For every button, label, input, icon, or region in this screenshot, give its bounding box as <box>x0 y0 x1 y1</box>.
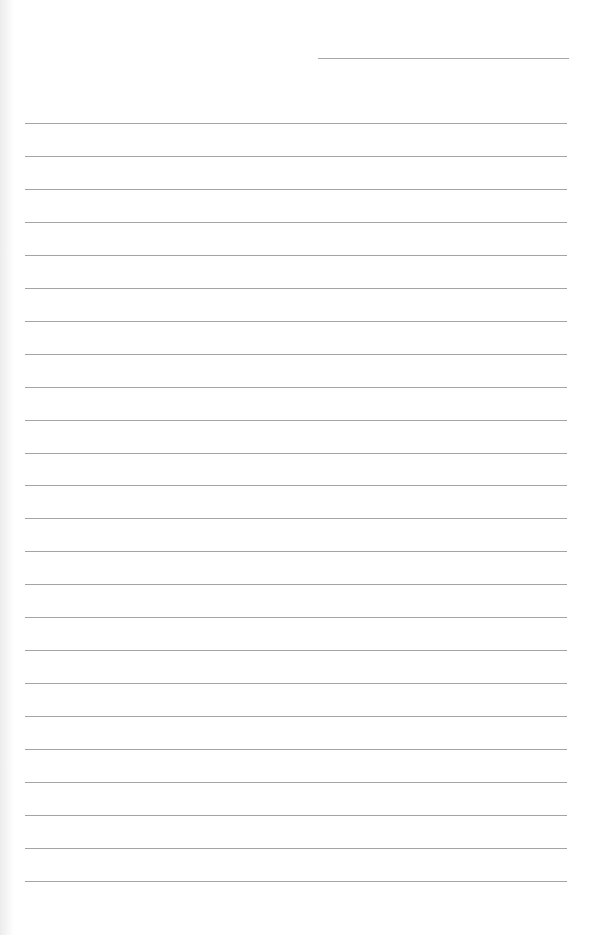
ruled-line <box>25 749 567 750</box>
ruled-line <box>25 551 567 552</box>
ruled-line <box>25 650 567 651</box>
ruled-line <box>25 584 567 585</box>
ruled-line <box>25 518 567 519</box>
scan-edge-shadow <box>0 0 14 935</box>
ruled-line <box>25 617 567 618</box>
ruled-line <box>25 453 567 454</box>
ruled-line <box>25 387 567 388</box>
ruled-line <box>25 222 567 223</box>
ruled-line <box>25 123 567 124</box>
ruled-line <box>25 716 567 717</box>
ruled-line <box>25 189 567 190</box>
ruled-line <box>25 354 567 355</box>
ruled-line <box>25 321 567 322</box>
ruled-line <box>25 848 567 849</box>
ruled-line <box>25 881 567 882</box>
ruled-line <box>25 485 567 486</box>
ruled-line <box>25 420 567 421</box>
ruled-line <box>25 782 567 783</box>
header-name-line <box>318 58 569 59</box>
ruled-line <box>25 255 567 256</box>
ruled-line <box>25 683 567 684</box>
ruled-line <box>25 288 567 289</box>
ruled-line <box>25 156 567 157</box>
ruled-line <box>25 815 567 816</box>
